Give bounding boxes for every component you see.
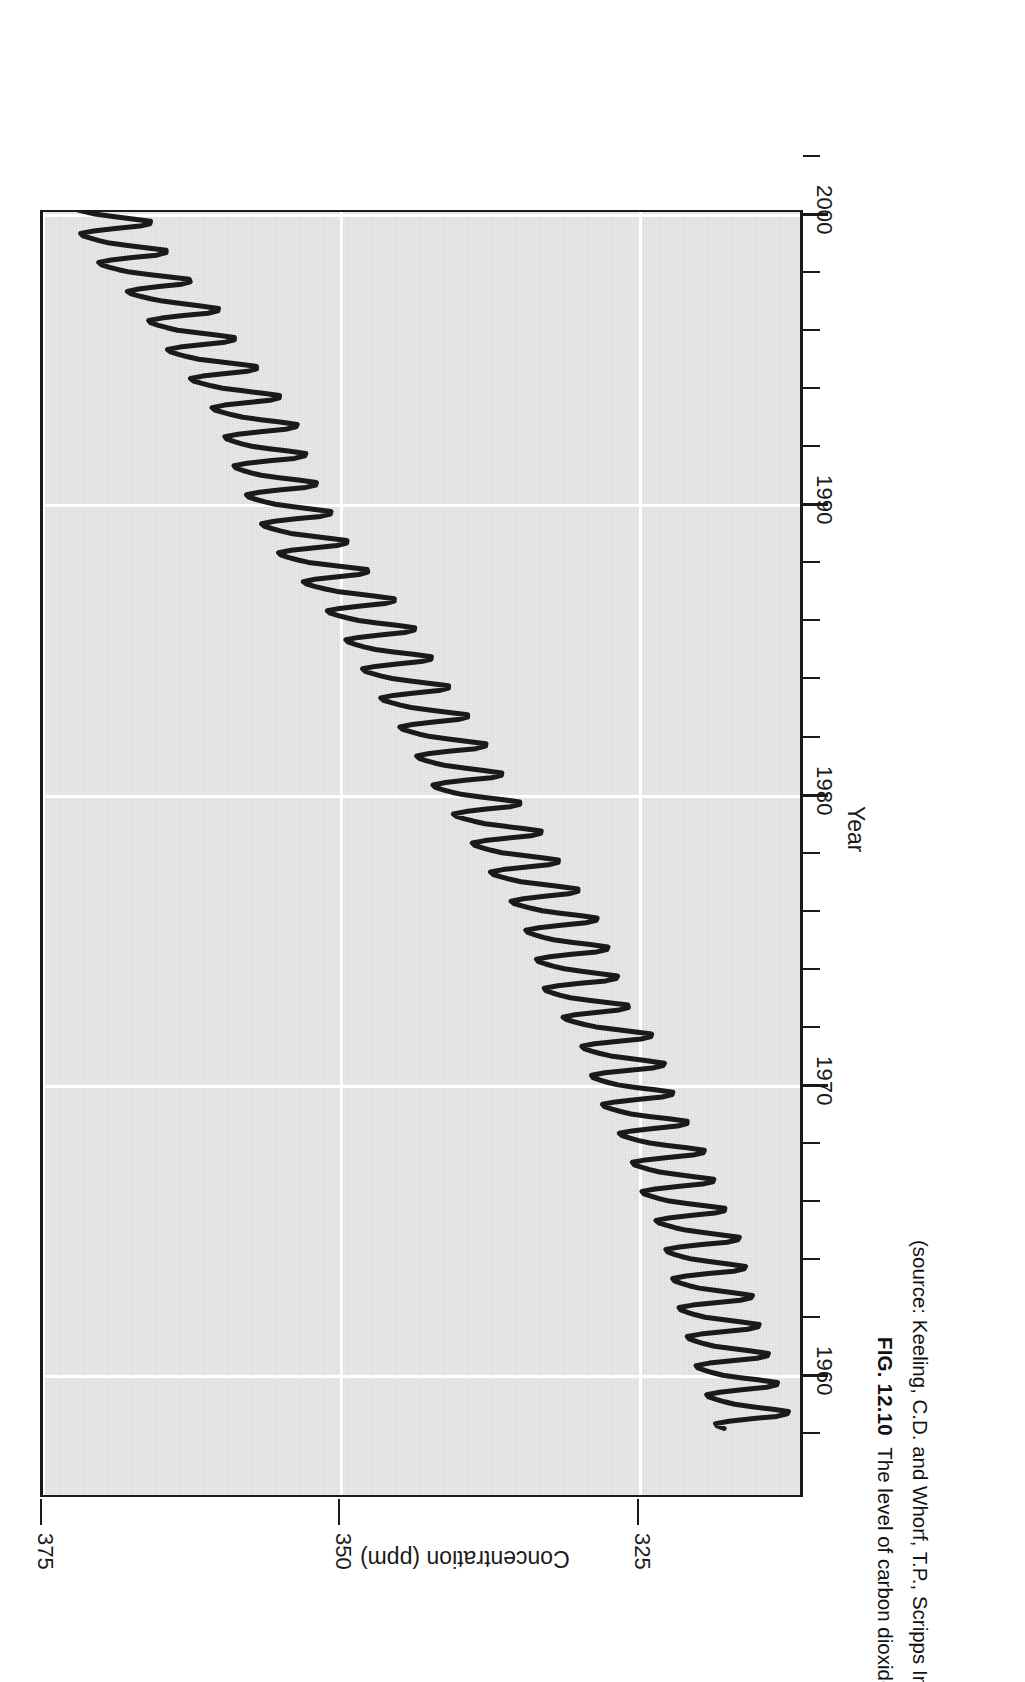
concentration-axis-title: Concentration (ppm) bbox=[360, 1545, 570, 1572]
concentration-tick-350 bbox=[338, 1499, 340, 1525]
year-tick-label-1990: 1990 bbox=[811, 475, 837, 525]
plot-panel bbox=[40, 210, 803, 1497]
year-tick-1984 bbox=[803, 677, 820, 679]
year-tick-1978 bbox=[803, 852, 820, 854]
year-tick-1972 bbox=[803, 1026, 820, 1028]
concentration-tick-375 bbox=[40, 1499, 42, 1525]
figure-caption-line-2: (source: Keeling, C.D. and Whorf, T.P., … bbox=[908, 1240, 932, 1682]
year-tick-1986 bbox=[803, 619, 820, 621]
figure-caption-line-1: FIG. 12.10 The level of carbon dioxide i… bbox=[873, 1337, 897, 1682]
concentration-tick-label-375: 375 bbox=[32, 1533, 58, 1570]
year-tick-2002 bbox=[803, 155, 820, 157]
concentration-tick-label-325: 325 bbox=[629, 1533, 655, 1570]
year-tick-label-1970: 1970 bbox=[811, 1056, 837, 1106]
co2-data-line bbox=[43, 212, 803, 1497]
year-axis-title: Year bbox=[842, 806, 869, 852]
year-tick-1968 bbox=[803, 1142, 820, 1144]
year-tick-1998 bbox=[803, 271, 820, 273]
year-tick-1962 bbox=[803, 1316, 820, 1318]
year-tick-1958 bbox=[803, 1432, 820, 1434]
year-tick-1966 bbox=[803, 1200, 820, 1202]
concentration-tick-325 bbox=[637, 1499, 639, 1525]
year-tick-1964 bbox=[803, 1258, 820, 1260]
year-tick-label-2000: 2000 bbox=[811, 185, 837, 235]
year-tick-1974 bbox=[803, 968, 820, 970]
year-tick-1988 bbox=[803, 561, 820, 563]
year-axis: 19601970198019902000 bbox=[803, 209, 804, 1498]
year-tick-1992 bbox=[803, 445, 820, 447]
figure-number: FIG. 12.10 bbox=[874, 1337, 897, 1436]
year-tick-1982 bbox=[803, 736, 820, 738]
figure-12-10: 19601970198019902000 Year 325350375 Conc… bbox=[0, 0, 1025, 1682]
year-tick-label-1960: 1960 bbox=[811, 1346, 837, 1396]
year-tick-label-1980: 1980 bbox=[811, 766, 837, 816]
concentration-tick-label-350: 350 bbox=[330, 1533, 356, 1570]
figure-caption-text: The level of carbon dioxide in the atmos… bbox=[874, 1447, 897, 1682]
year-tick-1996 bbox=[803, 329, 820, 331]
year-tick-1976 bbox=[803, 910, 820, 912]
concentration-axis: 325350375 bbox=[40, 1499, 804, 1500]
year-tick-1994 bbox=[803, 387, 820, 389]
